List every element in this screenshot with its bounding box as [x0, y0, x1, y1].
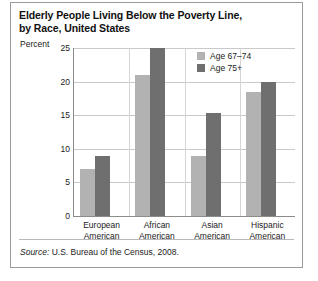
plot-area: 0510152025EuropeanAmericanAfricanAmerica…: [73, 48, 295, 217]
x-axis-tick-label: EuropeanAmerican: [71, 220, 133, 241]
bar: [135, 75, 150, 216]
chart-legend: Age 67–74 Age 75+: [197, 50, 251, 74]
y-axis-tick: 15: [61, 110, 70, 120]
source-note: Source: U.S. Bureau of the Census, 2008.: [20, 247, 179, 257]
bar: [206, 113, 221, 216]
bar: [150, 48, 165, 216]
chart-title: Elderly People Living Below the Poverty …: [19, 9, 291, 35]
legend-item-age-75-plus: Age 75+: [197, 62, 251, 74]
y-axis-tick: 25: [61, 43, 70, 53]
y-axis-tick: 0: [65, 211, 70, 221]
y-axis-tick: 20: [61, 77, 70, 87]
bar: [191, 156, 206, 216]
source-divider: [19, 239, 294, 240]
x-axis-tick-label: AsianAmerican: [181, 220, 243, 241]
legend-label-age-67-74: Age 67–74: [210, 51, 251, 61]
figure-panel: Elderly People Living Below the Poverty …: [10, 2, 303, 268]
bar-group: AfricanAmerican: [129, 48, 184, 216]
legend-swatch-dark-icon: [197, 64, 205, 72]
x-axis-tick-label: HispanicAmerican: [236, 220, 298, 241]
chart-title-line-1: Elderly People Living Below the Poverty …: [19, 9, 291, 22]
source-text: U.S. Bureau of the Census, 2008.: [49, 247, 178, 257]
y-axis-tick: 10: [61, 144, 70, 154]
legend-item-age-67-74: Age 67–74: [197, 50, 251, 62]
y-axis-tick: 5: [65, 177, 70, 187]
chart-title-line-2: by Race, United States: [19, 22, 291, 35]
bar: [246, 92, 261, 216]
bar: [80, 169, 95, 216]
bar: [95, 156, 110, 216]
source-prefix: Source:: [20, 247, 49, 257]
y-axis-label: Percent: [20, 39, 49, 49]
legend-swatch-light-icon: [197, 52, 205, 60]
x-axis-tick-label: AfricanAmerican: [126, 220, 188, 241]
bar-group: EuropeanAmerican: [74, 48, 129, 216]
legend-label-age-75-plus: Age 75+: [210, 63, 242, 73]
bar: [261, 82, 276, 216]
